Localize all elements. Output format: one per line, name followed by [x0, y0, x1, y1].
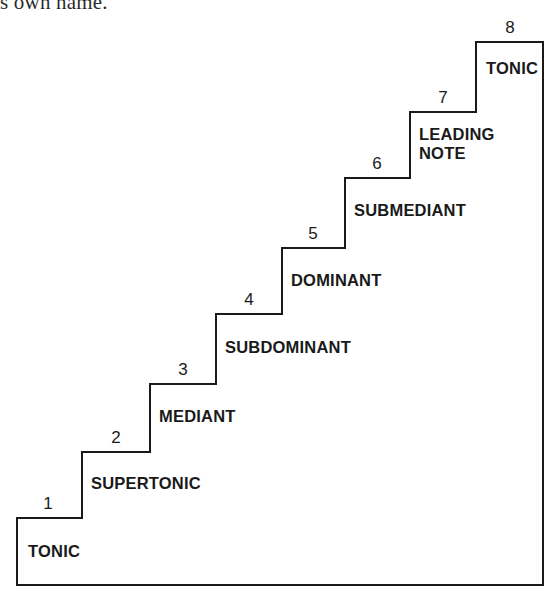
step-number-3: 3: [168, 361, 198, 379]
scale-degrees-staircase-diagram: 1 2 3 4 5 6 7 8 TONIC SUPERTONIC MEDIANT…: [0, 0, 556, 604]
step-label-subdominant: SUBDOMINANT: [225, 338, 351, 357]
step-number-6: 6: [362, 155, 392, 173]
step-label-leading-note: LEADING NOTE: [419, 125, 495, 163]
step-label-tonic-8: TONIC: [486, 59, 538, 78]
step-number-4: 4: [234, 291, 264, 309]
step-number-8: 8: [495, 19, 525, 37]
step-number-2: 2: [101, 429, 131, 447]
step-label-submediant: SUBMEDIANT: [354, 201, 466, 220]
step-label-tonic-1: TONIC: [28, 542, 80, 561]
staircase-outline-svg: [0, 0, 556, 604]
step-label-dominant: DOMINANT: [291, 271, 382, 290]
step-label-mediant: MEDIANT: [159, 407, 236, 426]
step-number-1: 1: [33, 495, 63, 513]
staircase-outline-path: [17, 42, 543, 585]
step-number-7: 7: [428, 89, 458, 107]
step-label-supertonic: SUPERTONIC: [91, 474, 201, 493]
step-number-5: 5: [298, 225, 328, 243]
page-root: s own name. 1 2 3 4 5 6 7 8 TONIC SUPERT…: [0, 0, 556, 604]
